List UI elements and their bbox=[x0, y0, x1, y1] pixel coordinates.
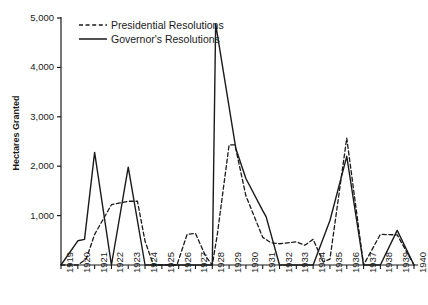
x-tick-label: 1923 bbox=[132, 252, 142, 273]
axes bbox=[61, 17, 418, 265]
x-tick-label: 1939 bbox=[401, 252, 411, 273]
x-tick-label: 1922 bbox=[115, 252, 125, 273]
x-tick-label: 1934 bbox=[317, 252, 327, 273]
x-tick-label: 1931 bbox=[267, 252, 277, 273]
legend-label-presidential: Presidential Resolutions bbox=[108, 20, 224, 31]
solid-line-icon bbox=[78, 34, 108, 44]
legend-label-governor: Governor's Resolutions bbox=[108, 34, 220, 45]
chart-legend: Presidential Resolutions Governor's Reso… bbox=[78, 18, 268, 46]
dashed-line-icon bbox=[78, 20, 108, 30]
x-tick-label: 1925 bbox=[166, 252, 176, 273]
x-tick-label: 1932 bbox=[284, 252, 294, 273]
x-tick-label: 1921 bbox=[99, 252, 109, 273]
x-tick-label: 1930 bbox=[250, 252, 260, 273]
x-tick-label: 1920 bbox=[82, 252, 92, 273]
x-tick-label: 1933 bbox=[300, 252, 310, 273]
data-series bbox=[61, 24, 414, 265]
x-tick-label: 1929 bbox=[233, 252, 243, 273]
x-tick-label: 1924 bbox=[149, 252, 159, 273]
x-tick-label: 1919 bbox=[65, 252, 75, 273]
x-tick-label: 1936 bbox=[351, 252, 361, 273]
x-tick-label: 1938 bbox=[384, 252, 394, 273]
legend-item-governor: Governor's Resolutions bbox=[78, 32, 268, 46]
x-tick-label: 1928 bbox=[216, 252, 226, 273]
legend-item-presidential: Presidential Resolutions bbox=[78, 18, 268, 32]
x-tick-label: 1926 bbox=[183, 252, 193, 273]
x-tick-label: 1935 bbox=[334, 252, 344, 273]
x-tick-label: 1940 bbox=[418, 252, 428, 273]
x-tick-label: 1937 bbox=[368, 252, 378, 273]
x-tick-label: 1927 bbox=[199, 252, 209, 273]
